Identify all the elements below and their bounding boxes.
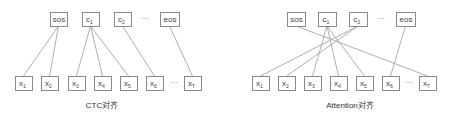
- input-node-x4: x4: [95, 77, 112, 91]
- input-node-x3: x3: [69, 77, 86, 91]
- input-node-x4: x4: [331, 77, 348, 91]
- node-label: eos: [164, 15, 177, 24]
- attention-alignment-diagram: sosc1c2eosx1x2x3x4x5x6xT······Attention对…: [253, 13, 437, 111]
- edge-sos-x2: [50, 26, 59, 76]
- output-ellipsis: ···: [377, 14, 385, 23]
- output-node-c2: c2: [115, 13, 132, 27]
- ctc-alignment-diagram: sosc1c2eosx1x2x3x4x5x6xT······CTC对齐: [16, 13, 202, 111]
- edge-eos-x6: [391, 26, 406, 76]
- edges: [261, 26, 428, 76]
- output-node-c1: c1: [319, 13, 337, 27]
- edge-sos-x1: [24, 26, 59, 76]
- diagram-caption: CTC对齐: [86, 100, 118, 110]
- input-node-x6: x6: [383, 77, 400, 91]
- input-node-x3: x3: [305, 77, 322, 91]
- input-node-x6: x6: [147, 77, 164, 91]
- output-node-sos: sos: [288, 13, 306, 27]
- node-label: sos: [290, 15, 302, 24]
- output-node-eos: eos: [161, 13, 180, 27]
- output-node-c1: c1: [83, 13, 100, 27]
- edges: [24, 26, 193, 76]
- input-node-x1: x1: [16, 77, 33, 91]
- input-ellipsis: ···: [170, 78, 178, 87]
- node-label: sos: [53, 15, 65, 24]
- diagram-caption: Attention对齐: [326, 100, 374, 110]
- edge-eos-xT: [170, 26, 193, 76]
- alignment-diagrams: sosc1c2eosx1x2x3x4x5x6xT······CTC对齐sosc1…: [0, 0, 453, 115]
- node-label: eos: [400, 15, 413, 24]
- edge-sos-xT: [296, 26, 428, 76]
- output-node-c2: c2: [350, 13, 368, 27]
- input-ellipsis: ···: [405, 78, 413, 87]
- edge-c1-x3: [77, 26, 91, 76]
- output-node-eos: eos: [397, 13, 416, 27]
- edge-c2-x2: [287, 26, 359, 76]
- input-node-xT: xT: [185, 77, 202, 91]
- output-node-sos: sos: [51, 13, 68, 27]
- edge-c2-x1: [261, 26, 359, 76]
- input-node-x1: x1: [253, 77, 270, 91]
- input-node-xT: xT: [420, 77, 437, 91]
- output-ellipsis: ···: [141, 14, 149, 23]
- input-node-x2: x2: [279, 77, 296, 91]
- input-node-x5: x5: [357, 77, 374, 91]
- edge-c2-x6: [123, 26, 155, 76]
- input-node-x2: x2: [42, 77, 59, 91]
- input-node-x5: x5: [121, 77, 138, 91]
